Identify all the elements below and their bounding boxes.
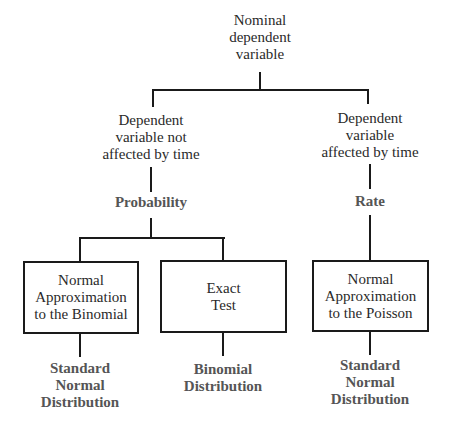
root-line-1: Nominal	[229, 12, 291, 29]
result1-line-3: Distribution	[41, 394, 119, 411]
root-line-2: dependent	[229, 29, 291, 46]
connector-rate-down	[369, 215, 371, 261]
connector-root-horizontal	[152, 89, 369, 91]
result-standard-normal-left: Standard Normal Distribution	[41, 360, 119, 411]
connector-right-to-rate	[369, 164, 371, 189]
box3-line-1: Normal	[325, 271, 417, 288]
result-standard-normal-right: Standard Normal Distribution	[331, 357, 409, 408]
connector-left-to-probability	[150, 167, 152, 192]
result2-line-1: Binomial	[184, 361, 262, 378]
result3-line-2: Normal	[331, 374, 409, 391]
result1-line-1: Standard	[41, 360, 119, 377]
branch-affected-by-time: Dependent variable affected by time	[321, 110, 418, 161]
branch-right-line-2: variable	[321, 127, 418, 144]
root-node: Nominal dependent variable	[229, 12, 291, 63]
box-normal-approx-binomial: Normal Approximation to the Binomial	[23, 261, 139, 334]
box2-line-1: Exact	[206, 280, 240, 297]
box3-line-2: Approximation	[325, 288, 417, 305]
probability-label: Probability	[115, 194, 187, 211]
connector-box1-down	[79, 333, 81, 357]
result1-line-2: Normal	[41, 377, 119, 394]
box-exact-test: Exact Test	[160, 260, 287, 333]
box3-line-3: to the Poisson	[325, 305, 417, 322]
branch-left-line-2: variable not	[102, 129, 199, 146]
box1-line-3: to the Binomial	[34, 306, 127, 323]
branch-left-line-1: Dependent	[102, 112, 199, 129]
box1-line-1: Normal	[34, 272, 127, 289]
rate-label: Rate	[355, 193, 385, 210]
result3-line-3: Distribution	[331, 391, 409, 408]
result2-line-2: Distribution	[184, 378, 262, 395]
branch-left-line-3: affected by time	[102, 146, 199, 163]
connector-right-drop	[367, 89, 369, 104]
branch-right-line-1: Dependent	[321, 110, 418, 127]
box-normal-approx-poisson: Normal Approximation to the Poisson	[312, 260, 429, 332]
connector-exact-test-drop	[222, 237, 224, 261]
result3-line-1: Standard	[331, 357, 409, 374]
connector-binomial-approx-drop	[79, 237, 81, 262]
box1-line-2: Approximation	[34, 289, 127, 306]
root-line-3: variable	[229, 46, 291, 63]
box2-line-2: Test	[206, 297, 240, 314]
connector-probability-horizontal	[79, 237, 225, 239]
branch-right-line-3: affected by time	[321, 144, 418, 161]
connector-left-drop	[152, 89, 154, 107]
connector-box2-down	[222, 332, 224, 356]
result-binomial-distribution: Binomial Distribution	[184, 361, 262, 395]
connector-box3-down	[369, 331, 371, 355]
branch-not-affected-by-time: Dependent variable not affected by time	[102, 112, 199, 163]
connector-probability-down	[150, 218, 152, 239]
